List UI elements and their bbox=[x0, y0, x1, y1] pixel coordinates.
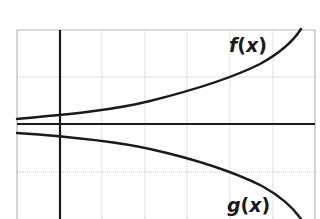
function-graph: f(x) g(x) bbox=[0, 0, 320, 219]
label-g: g(x) bbox=[227, 194, 270, 216]
label-f: f(x) bbox=[229, 34, 267, 56]
